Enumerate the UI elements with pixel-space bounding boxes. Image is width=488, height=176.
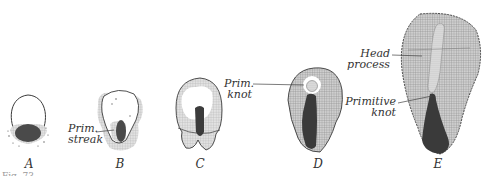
panel-label-b: B [116,157,125,171]
panel-e-embryo [401,13,480,154]
panel-b-embryo [98,90,143,150]
panel-label-e: E [434,157,443,171]
prim-knot-label: Prim. knot [224,78,252,100]
head-process-label-line2: process [344,59,390,70]
panel-c-embryo [176,78,222,150]
prim-knot-label-line2: knot [224,89,252,100]
primitive-knot-label-line2: knot [340,107,396,118]
panel-label-d: D [313,157,323,171]
prim-streak-label-line2: streak [68,134,96,145]
panel-a-embryo [7,95,48,147]
figure-caption-partial: Fig. 73.— [2,171,46,176]
panel-label-a: A [25,157,34,171]
prim-streak-label: Prim. streak [68,123,96,145]
primitive-knot-label: Primitive knot [340,96,396,118]
head-process-label: Head process [344,48,390,70]
panel-d-embryo [288,68,342,152]
panel-label-c: C [195,157,204,171]
